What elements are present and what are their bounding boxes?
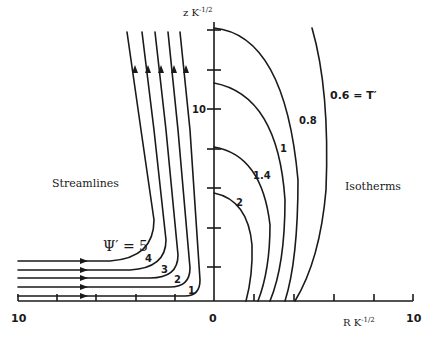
z-tick-10: 10 (192, 104, 206, 115)
isotherm-0-8 (214, 28, 298, 301)
streamlines (18, 32, 200, 299)
isotherms-label: Isotherms (345, 180, 401, 193)
t-0-6-label: 0.6 = T′ (330, 89, 377, 102)
t-1-label: 1 (280, 143, 287, 154)
r-axis-label: R K-1/2 (343, 316, 375, 328)
x-tick-center: 0 (209, 312, 217, 325)
psi-2: 2 (174, 274, 181, 285)
streamline-3 (18, 32, 178, 278)
diagram-figure: Streamlines Isotherms Ψ′ = 5 4 3 2 1 0.6… (0, 0, 433, 342)
psi-4: 4 (145, 253, 152, 264)
r-axis-ticks (18, 294, 413, 301)
axes (18, 22, 413, 301)
x-tick-right: 10 (406, 312, 422, 325)
t-0-8-label: 0.8 (299, 115, 317, 126)
streamline-5 (18, 32, 154, 261)
psi-1: 1 (188, 285, 195, 296)
psi-3: 3 (161, 264, 168, 275)
x-tick-left: 10 (11, 312, 27, 325)
psi-label: Ψ′ = 5 (103, 238, 148, 254)
isotherm-0-6 (295, 28, 327, 301)
z-axis-label: z K-1/2 (183, 6, 213, 18)
isotherm-1 (214, 83, 285, 301)
isotherm-2 (214, 193, 252, 301)
isotherms (214, 28, 327, 301)
t-2-label: 2 (236, 197, 243, 208)
t-1-4-label: 1.4 (253, 170, 271, 181)
streamlines-label: Streamlines (52, 177, 119, 190)
